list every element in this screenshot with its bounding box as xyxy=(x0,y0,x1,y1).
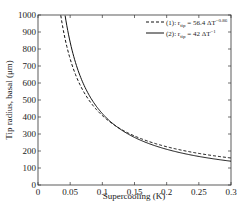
y-axis-label: Tip radius, basal (μm) xyxy=(4,60,14,140)
x-tick-label: 0.05 xyxy=(62,187,78,197)
y-tick-label: 900 xyxy=(23,27,37,37)
y-tick-label: 500 xyxy=(23,95,37,105)
y-tick-label: 800 xyxy=(23,44,37,54)
chart: 01002003004005006007008009001000 00.050.… xyxy=(0,0,244,204)
y-tick-label: 600 xyxy=(23,78,37,88)
y-tick-label: 700 xyxy=(23,61,37,71)
x-tick-label: 0 xyxy=(36,187,41,197)
x-tick-label: 0.3 xyxy=(225,187,237,197)
y-tick-label: 1000 xyxy=(18,10,37,20)
legend: (1): rtip = 56.4 ΔT−0.86 (2): rtip = 42 … xyxy=(146,18,228,39)
y-tick-label: 400 xyxy=(23,112,37,122)
plot-frame xyxy=(38,15,231,185)
legend-item-2: (2): rtip = 42 ΔT−1 xyxy=(166,29,216,39)
y-tick-label: 300 xyxy=(23,129,37,139)
y-tick-label: 200 xyxy=(23,146,37,156)
legend-item-1: (1): rtip = 56.4 ΔT−0.86 xyxy=(166,18,228,28)
x-tick-label: 0.25 xyxy=(191,187,207,197)
x-axis-label: Supercooling (K) xyxy=(103,191,166,201)
y-tick-label: 100 xyxy=(23,163,37,173)
